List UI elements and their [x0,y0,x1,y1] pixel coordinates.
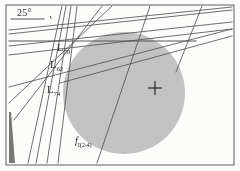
label-angle-25-base: 25 [17,7,27,18]
label-L74-subscript: 74 [53,90,60,97]
angle-arc-25deg [50,16,51,19]
label-L70-subscript: 70 [63,48,70,55]
label-L62-subscript: 62 [56,65,63,72]
figure-root: 25°L70L62L74fI(2-4) [0,0,240,171]
label-L70: L70 [57,43,70,56]
label-L62: L62 [50,60,63,73]
label-L74: L74 [47,85,60,98]
label-angle-25-suffix: ° [27,7,31,18]
figure-canvas [0,0,240,171]
label-f-I-2-4: fI(2-4) [75,136,92,148]
label-angle-25: 25° [17,8,32,18]
label-f-I-2-4-subscript: I(2-4) [78,141,92,148]
